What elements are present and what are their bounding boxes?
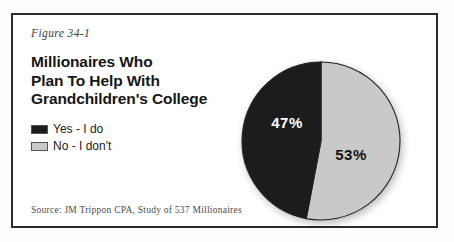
legend-item-yes: Yes - I do [31,122,246,137]
legend-item-no: No - I don't [31,139,246,154]
figure-border-box: Figure 34-1 Millionaires Who Plan To Hel… [11,13,438,228]
pie-label-no: 53% [335,146,367,163]
title-line-1: Millionaires Who [31,53,246,72]
title-line-2: Plan To Help With [31,72,246,91]
page-title: Millionaires Who Plan To Help With Grand… [31,53,246,109]
title-line-3: Grandchildren's College [31,90,246,109]
figure-text-column: Figure 34-1 Millionaires Who Plan To Hel… [31,27,246,156]
pie-chart: 47% 53% [229,47,411,231]
chart-legend: Yes - I do No - I don't [31,122,246,154]
source-note: Source: JM Trippon CPA, Study of 537 Mil… [31,205,242,215]
legend-label-no: No - I don't [53,139,111,153]
figure-caption: Figure 34-1 [31,27,246,39]
figure-canvas: Figure 34-1 Millionaires Who Plan To Hel… [0,0,454,242]
legend-swatch-no-icon [31,142,48,151]
legend-swatch-yes-icon [31,125,48,134]
pie-slice-yes[interactable] [242,62,321,219]
legend-label-yes: Yes - I do [53,122,103,136]
pie-label-yes: 47% [271,114,303,131]
pie-chart-svg: 47% 53% [229,47,411,231]
